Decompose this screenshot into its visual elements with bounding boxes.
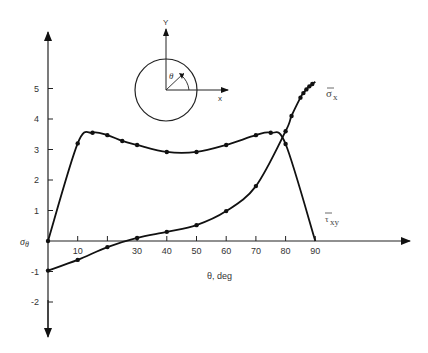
series-label-tau-xy: τ xy [325, 213, 340, 227]
y-axis-ticks: 54321-1-2 [31, 84, 53, 308]
data-point [76, 141, 80, 145]
x-tick-label: 60 [221, 246, 231, 256]
series-line [48, 132, 315, 241]
data-point [301, 91, 305, 95]
series-sigma-x [46, 131, 316, 244]
x-tick-label: 70 [251, 246, 261, 256]
data-point [76, 258, 80, 262]
y-tick-label: -1 [31, 267, 39, 277]
data-point [46, 239, 50, 243]
data-point [224, 143, 228, 147]
stress-distribution-chart: 1030405060708090 54321-1-2 σθ θ, deg σ x… [0, 0, 428, 353]
y-tick-label: 5 [34, 84, 39, 94]
data-point [254, 133, 258, 137]
data-point [46, 268, 50, 272]
series-tau-xy [46, 82, 316, 273]
y-tick-label: 1 [34, 206, 39, 216]
svg-text:xy: xy [330, 217, 340, 227]
series-line [48, 82, 315, 271]
data-point [105, 133, 109, 137]
inset-arc-arrowhead [179, 73, 184, 79]
data-point [224, 209, 228, 213]
x-axis-label: θ, deg [207, 271, 232, 281]
data-point [90, 131, 94, 135]
data-point [165, 150, 169, 154]
svg-text:x: x [333, 92, 338, 102]
y-tick-label: 2 [34, 175, 39, 185]
data-point [283, 142, 287, 146]
data-point [283, 129, 287, 133]
y-tick-label: 4 [34, 114, 39, 124]
data-point [135, 143, 139, 147]
series-label-sigma-x: σ x [326, 87, 338, 102]
data-point [194, 223, 198, 227]
data-point [120, 139, 124, 143]
data-point [165, 230, 169, 234]
x-tick-label: 40 [162, 246, 172, 256]
data-point [254, 184, 258, 188]
x-tick-label: 50 [191, 246, 201, 256]
data-point [135, 236, 139, 240]
x-tick-label: 80 [281, 246, 291, 256]
axes: 1030405060708090 54321-1-2 [31, 32, 410, 337]
svg-text:σ: σ [326, 87, 332, 99]
data-point [194, 150, 198, 154]
svg-text:τ: τ [325, 214, 329, 224]
inset-y-label: Y [163, 18, 169, 27]
x-tick-label: 10 [73, 246, 83, 256]
data-series [46, 82, 316, 273]
y-tick-label: -2 [31, 297, 39, 307]
data-point [289, 114, 293, 118]
inset-x-label: x [218, 94, 222, 103]
inset-diagram: Y x θ [135, 18, 228, 121]
inset-theta-label: θ [169, 71, 174, 81]
x-tick-label: 90 [310, 246, 320, 256]
data-point [105, 245, 109, 249]
data-point [310, 82, 314, 86]
x-tick-label: 30 [132, 246, 142, 256]
y-tick-label: 3 [34, 145, 39, 155]
data-point [298, 95, 302, 99]
data-point [269, 131, 273, 135]
y-axis-label: σθ [20, 236, 29, 249]
